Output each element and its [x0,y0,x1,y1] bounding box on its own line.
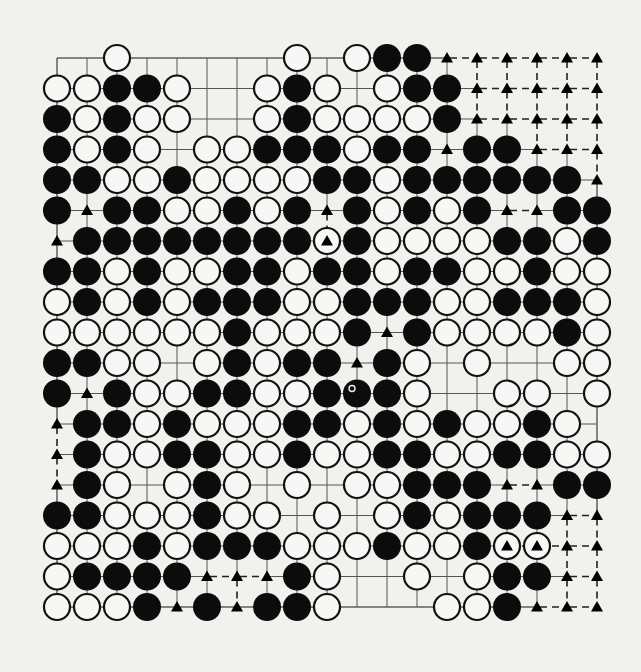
black-stone [193,471,221,499]
black-stone [283,563,311,591]
black-stone [73,227,101,255]
black-stone [373,410,401,438]
white-stone [104,442,130,468]
black-stone [73,410,101,438]
black-stone [403,471,431,499]
white-stone [134,137,160,163]
white-stone [74,320,100,346]
white-stone [494,381,520,407]
white-stone [434,594,460,620]
white-stone [224,472,250,498]
black-stone [373,532,401,560]
white-stone [404,106,430,132]
black-stone [493,288,521,316]
white-stone [104,45,130,71]
white-stone [164,533,190,559]
black-stone [463,532,491,560]
black-stone [313,166,341,194]
white-stone [404,350,430,376]
black-stone [133,258,161,286]
black-stone [433,471,461,499]
black-stone [403,166,431,194]
triangle-marker-icon [441,144,453,155]
white-stone [284,533,310,559]
black-stone [133,227,161,255]
white-stone [44,594,70,620]
black-stone [403,288,431,316]
white-stone [104,533,130,559]
go-board [0,0,641,672]
white-stone [584,320,610,346]
black-stone [283,75,311,103]
triangle-marker-icon [261,571,273,582]
white-stone [584,381,610,407]
white-stone [374,503,400,529]
black-stone [343,319,371,347]
white-stone [284,259,310,285]
white-stone [104,289,130,315]
white-stone [164,198,190,224]
white-stone [554,228,580,254]
white-stone [404,228,430,254]
triangle-marker-icon [531,479,543,490]
black-stone [583,471,611,499]
white-stone [554,259,580,285]
white-stone [464,594,490,620]
white-stone [434,320,460,346]
black-stone [403,136,431,164]
black-stone [313,380,341,408]
white-stone [434,533,460,559]
triangle-marker-icon [51,479,63,490]
white-stone [584,289,610,315]
white-stone [314,76,340,102]
white-stone [554,350,580,376]
white-stone [464,228,490,254]
white-stone [314,442,340,468]
white-stone [314,320,340,346]
white-stone [434,198,460,224]
black-stone [133,532,161,560]
black-stone [313,258,341,286]
black-stone [103,380,131,408]
white-stone [134,442,160,468]
white-stone [464,411,490,437]
white-stone [254,442,280,468]
triangle-marker-icon [591,601,603,612]
black-stone [403,75,431,103]
white-stone [314,503,340,529]
white-stone [344,137,370,163]
white-stone [464,320,490,346]
white-stone [164,289,190,315]
white-stone [164,503,190,529]
white-stone [164,259,190,285]
white-stone [434,442,460,468]
black-stone [133,563,161,591]
white-stone [404,381,430,407]
white-stone [434,289,460,315]
white-stone [314,289,340,315]
white-stone [134,350,160,376]
white-stone [374,472,400,498]
white-stone [194,167,220,193]
white-stone [104,472,130,498]
black-stone [73,288,101,316]
black-stone [103,197,131,225]
black-stone [103,136,131,164]
black-stone [283,349,311,377]
white-stone [464,442,490,468]
white-stone [194,411,220,437]
black-stone [343,166,371,194]
white-stone [254,76,280,102]
white-stone [464,564,490,590]
white-stone [404,533,430,559]
black-stone [373,288,401,316]
white-stone [194,198,220,224]
white-stone [344,442,370,468]
black-stone [493,502,521,530]
white-stone [284,289,310,315]
white-stone [44,289,70,315]
white-stone [134,167,160,193]
white-stone [344,106,370,132]
black-stone [193,593,221,621]
black-stone [463,166,491,194]
